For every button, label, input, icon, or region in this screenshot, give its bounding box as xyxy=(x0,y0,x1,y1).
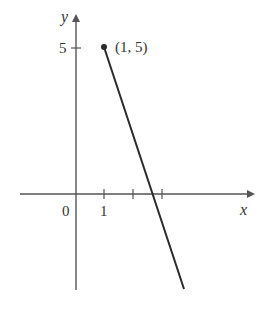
data-line xyxy=(104,47,184,289)
chart-canvas: y x 0 1 5 (1, 5) xyxy=(0,0,266,315)
x-axis-label: x xyxy=(239,201,247,218)
x-tick-label-1: 1 xyxy=(100,203,108,219)
y-tick-label-5: 5 xyxy=(59,40,67,56)
y-axis-label: y xyxy=(59,8,69,26)
origin-label: 0 xyxy=(62,203,70,219)
point-marker xyxy=(101,44,107,50)
point-label: (1, 5) xyxy=(115,39,148,56)
